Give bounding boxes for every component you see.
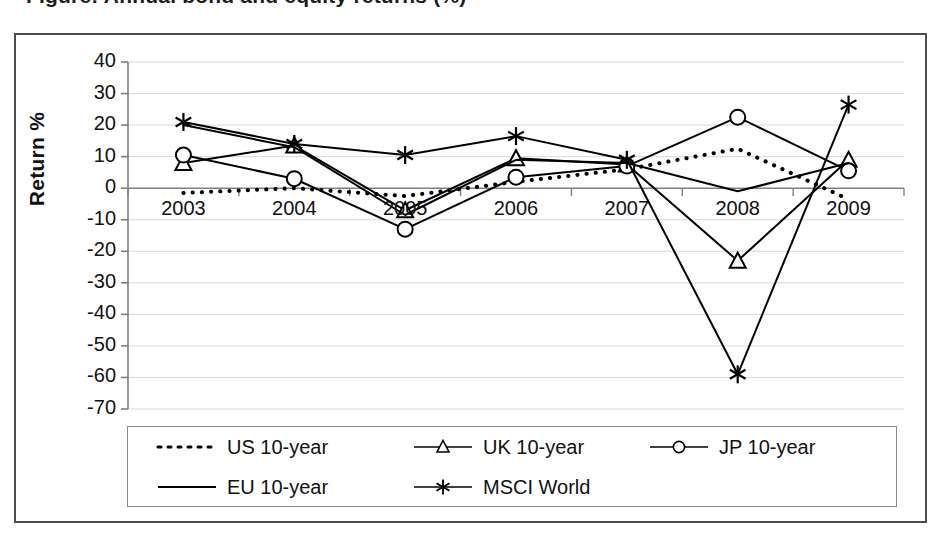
legend-label: US 10-year: [227, 436, 328, 459]
legend-label: JP 10-year: [719, 436, 815, 459]
x-axis-tick-label: 2006: [466, 197, 566, 220]
legend-label: UK 10-year: [483, 436, 584, 459]
cropped-title-sliver: Figure: Annual bond and equity returns (…: [0, 0, 943, 14]
y-axis-tick-label: -30: [20, 270, 116, 293]
line-triangle-swatch: [412, 437, 474, 457]
legend-row-2: EU 10-year MSCI World: [128, 467, 896, 507]
data-point-marker: [176, 148, 191, 163]
legend-item-us-10-year[interactable]: US 10-year: [156, 427, 328, 467]
x-axis-tick-label: 2005: [355, 197, 455, 220]
y-axis-tick-label: 30: [20, 81, 116, 104]
chart-plot-area: Return % 403020100-10-20-30-40-50-60-702…: [16, 35, 929, 525]
data-point-marker: [730, 365, 746, 383]
dotted-line-swatch: [156, 437, 218, 457]
data-point-marker: [509, 170, 524, 185]
legend-row-1: US 10-year UK 10-year JP 10-year: [128, 427, 896, 467]
x-axis-tick-label: 2009: [799, 197, 899, 220]
y-axis-tick-label: 0: [20, 175, 116, 198]
data-point-marker: [398, 222, 413, 237]
data-point-marker: [176, 113, 192, 131]
x-axis-tick-label: 2007: [577, 197, 677, 220]
legend-label: EU 10-year: [227, 476, 328, 499]
legend-label: MSCI World: [483, 476, 590, 499]
y-axis-tick-label: 10: [20, 144, 116, 167]
x-axis-tick-label: 2003: [133, 197, 233, 220]
figure-frame: Return % 403020100-10-20-30-40-50-60-702…: [14, 33, 927, 523]
data-point-marker: [287, 171, 302, 186]
y-axis-tick-label: -20: [20, 238, 116, 261]
line-circle-swatch: [648, 437, 710, 457]
y-axis-tick-label: 40: [20, 49, 116, 72]
data-point-marker: [730, 110, 745, 125]
legend-item-eu-10-year[interactable]: EU 10-year: [156, 467, 328, 507]
y-axis-tick-label: -40: [20, 301, 116, 324]
series-msci-world: [176, 96, 857, 384]
legend-item-msci-world[interactable]: MSCI World: [412, 467, 590, 507]
line-asterisk-swatch: [412, 477, 474, 497]
y-axis-tick-label: -10: [20, 207, 116, 230]
x-axis-tick-label: 2008: [688, 197, 788, 220]
x-axis-tick-label: 2004: [244, 197, 344, 220]
solid-line-swatch: [156, 477, 218, 497]
y-axis-tick-label: -50: [20, 333, 116, 356]
y-axis-tick-label: -60: [20, 364, 116, 387]
data-point-marker: [841, 163, 856, 178]
data-point-marker: [841, 96, 857, 114]
legend-item-uk-10-year[interactable]: UK 10-year: [412, 427, 584, 467]
chart-legend: US 10-year UK 10-year JP 10-year: [127, 426, 897, 507]
page-title: Figure: Annual bond and equity returns (…: [26, 0, 466, 8]
y-axis-tick-label: 20: [20, 112, 116, 135]
y-axis-tick-label: -70: [20, 396, 116, 419]
legend-item-jp-10-year[interactable]: JP 10-year: [648, 427, 815, 467]
